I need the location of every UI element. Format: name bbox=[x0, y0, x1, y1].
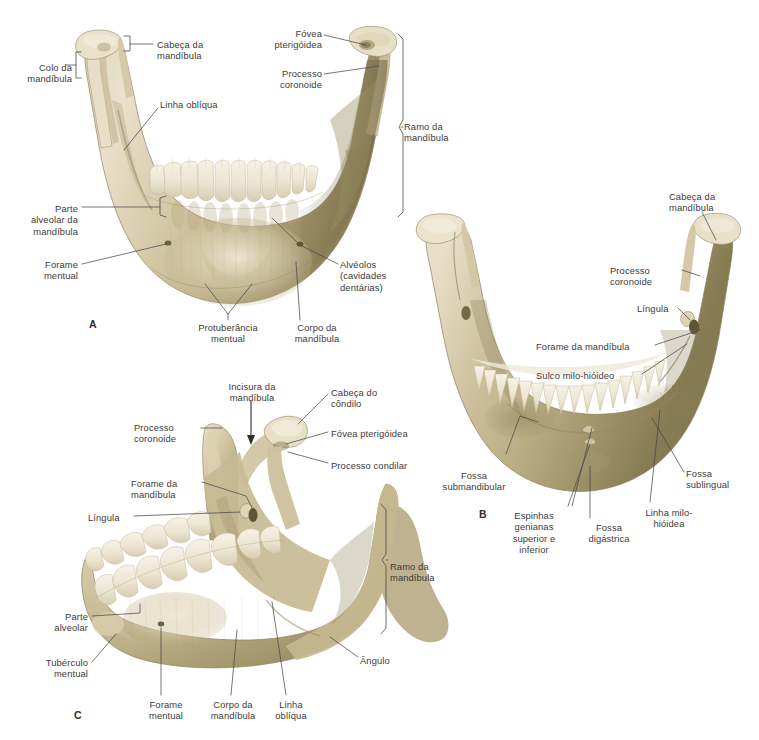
label-c-forame-mentual: Forame mentual bbox=[137, 699, 195, 722]
panel-letter-b: B bbox=[479, 508, 487, 520]
label-b-forame-da-mandibula: Forame da mandíbula bbox=[536, 341, 652, 352]
label-b-linha-milo-hioidea: Linha milo- hióidea bbox=[634, 507, 704, 530]
label-c-forame-da-mandibula: Forame da mandíbula bbox=[131, 478, 199, 501]
label-c-angulo: Ângulo bbox=[360, 655, 406, 666]
label-a-forame-mentual: Forame mentual bbox=[6, 259, 78, 282]
label-c-corpo-da-mandibula: Corpo da mandíbula bbox=[200, 699, 266, 722]
label-c-lingula: Língula bbox=[88, 512, 134, 523]
panel-letter-c: C bbox=[74, 709, 82, 721]
label-a-fovea-pterigoidea: Fóvea pterigóidea bbox=[254, 28, 322, 51]
label-c-ramo-da-mandibula: Ramo da mandíbula bbox=[390, 561, 460, 584]
label-a-linha-obliqua: Linha oblíqua bbox=[160, 99, 238, 110]
label-c-linha-obliqua: Linha oblíqua bbox=[266, 699, 316, 722]
mental-foramen-left bbox=[165, 240, 172, 245]
label-a-alveolos-cavidades-dentarias: Alvéolos (cavidades dentárias) bbox=[340, 259, 418, 293]
label-b-processo-coronoide: Processo coronoide bbox=[610, 265, 678, 288]
panel-c-bone bbox=[82, 416, 449, 668]
figure-canvas: Colo da mandíbulaCabeça da mandíbulaFóve… bbox=[0, 0, 759, 740]
label-a-parte-alveolar-da-mandibula: Parte alveolar da mandíbula bbox=[6, 203, 78, 237]
label-c-cabeca-do-condilo: Cabeça do côndilo bbox=[331, 387, 397, 410]
label-c-incisura-da-mandibula: Incisura da mandíbula bbox=[215, 381, 289, 404]
mandible-artwork bbox=[0, 0, 759, 740]
label-c-processo-coronoide: Processo coronoide bbox=[134, 422, 200, 445]
panel-letter-a: A bbox=[89, 318, 97, 330]
teeth-row-a bbox=[148, 157, 320, 202]
label-a-colo-da-mandibula: Colo da mandíbula bbox=[6, 62, 72, 85]
label-a-cabeca-da-mandibula: Cabeça da mandíbula bbox=[157, 39, 227, 62]
label-b-fossa-submandibular: Fossa submandibular bbox=[430, 470, 518, 493]
label-a-ramo-da-mandibula: Ramo da mandíbula bbox=[404, 121, 474, 144]
label-a-protuberancia-mentual: Protuberância mentual bbox=[183, 322, 273, 345]
label-c-processo-condilar: Processo condilar bbox=[331, 460, 429, 471]
label-b-lingula: Língula bbox=[637, 303, 683, 314]
label-a-processo-coronoide: Processo coronoide bbox=[256, 68, 322, 91]
label-b-fossa-digastrica: Fossa digástrica bbox=[578, 522, 640, 545]
label-c-tuberculo-mentual: Tubérculo mentual bbox=[20, 657, 88, 680]
label-c-fovea-pterigoidea: Fóvea pterigóidea bbox=[331, 428, 431, 439]
label-b-fossa-sublingual: Fossa sublingual bbox=[686, 468, 750, 491]
label-c-parte-alveolar: Parte alveolar bbox=[28, 611, 88, 634]
label-a-corpo-da-mandibula: Corpo da mandíbula bbox=[282, 322, 352, 345]
label-b-espinhas-genianas: Espinhas genianas superior e inferior bbox=[495, 510, 573, 556]
label-b-sulco-milo-hioideo: Sulco milo-hióideo bbox=[536, 370, 638, 381]
label-b-cabeca-da-mandibula: Cabeça da mandíbula bbox=[669, 191, 741, 214]
